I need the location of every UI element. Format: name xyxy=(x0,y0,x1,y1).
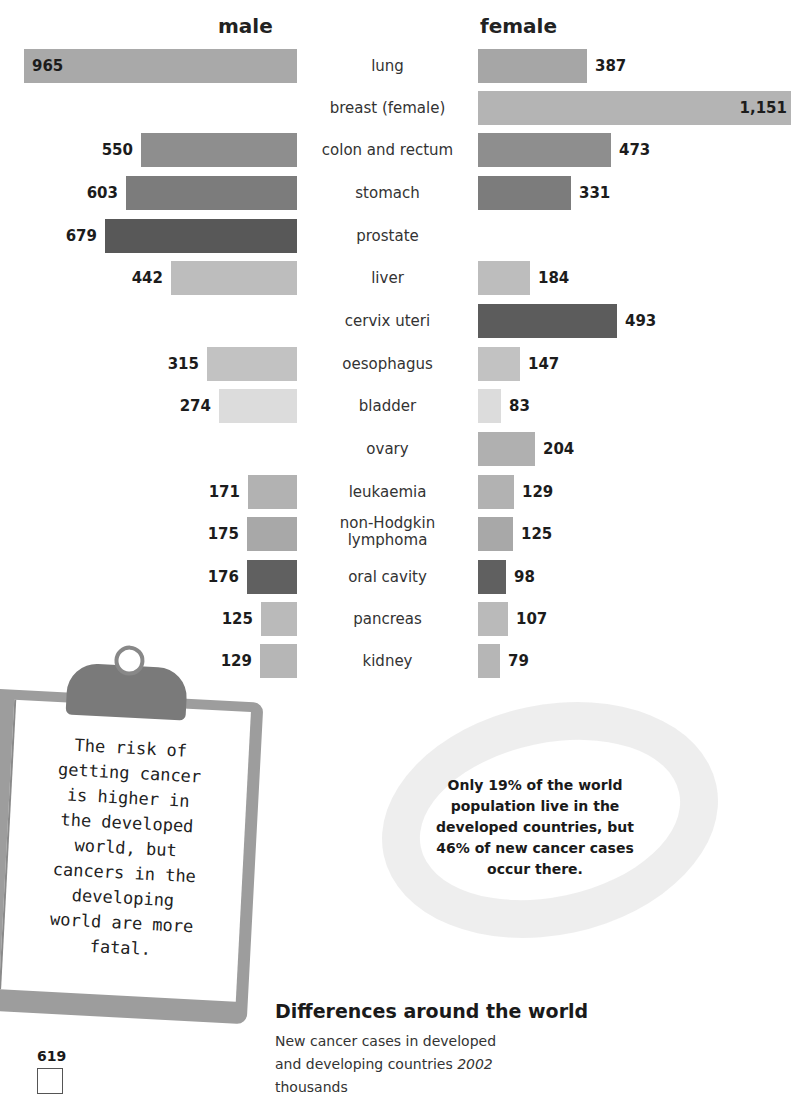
female-value: 129 xyxy=(522,475,553,509)
category-label: cervix uteri xyxy=(305,304,470,338)
male-value: 679 xyxy=(66,219,97,253)
chart-row: 175non-Hodgkinlymphoma125 xyxy=(0,517,791,551)
female-bar xyxy=(478,432,535,466)
male-bar xyxy=(126,176,297,210)
category-label-text: leukaemia xyxy=(305,475,470,509)
category-label: colon and rectum xyxy=(305,133,470,167)
male-value: 175 xyxy=(208,517,239,551)
male-value: 550 xyxy=(102,133,133,167)
female-value: 387 xyxy=(595,49,626,83)
category-label-text: ovary xyxy=(305,432,470,466)
subtitle-year: 2002 xyxy=(457,1056,493,1072)
female-header: female xyxy=(480,14,557,38)
chart-row: 176oral cavity98 xyxy=(0,560,791,594)
category-label-text: liver xyxy=(305,261,470,295)
chart-row: cervix uteri493 xyxy=(0,304,791,338)
female-bar xyxy=(478,560,506,594)
category-label: prostate xyxy=(305,219,470,253)
male-bar xyxy=(141,133,297,167)
category-label-text: stomach xyxy=(305,176,470,210)
male-header: male xyxy=(218,14,273,38)
chart-row: 171leukaemia129 xyxy=(0,475,791,509)
chart-row: 315oesophagus147 xyxy=(0,347,791,381)
subtitle-units: thousands xyxy=(275,1076,535,1098)
note-line: 46% of new cancer cases xyxy=(430,838,640,859)
mini-chart-value: 619 xyxy=(37,1048,66,1064)
category-label-text: lymphoma xyxy=(305,532,470,549)
section-subtitle: New cancer cases in developed and develo… xyxy=(275,1030,535,1098)
female-value: 83 xyxy=(509,389,530,423)
chart-row: 274bladder83 xyxy=(0,389,791,423)
female-bar xyxy=(478,475,514,509)
category-label-text: cervix uteri xyxy=(305,304,470,338)
category-label: oesophagus xyxy=(305,347,470,381)
chart-row: breast (female)1,151 xyxy=(0,91,791,125)
category-label-text: oesophagus xyxy=(305,347,470,381)
category-label: lung xyxy=(305,49,470,83)
category-label: leukaemia xyxy=(305,475,470,509)
chart-row: ovary204 xyxy=(0,432,791,466)
male-bar xyxy=(247,560,297,594)
male-value: 603 xyxy=(87,176,118,210)
note-line: population live in the xyxy=(430,796,640,817)
chart-row: 550colon and rectum473 xyxy=(0,133,791,167)
female-bar xyxy=(478,261,530,295)
female-bar xyxy=(478,347,520,381)
female-value: 204 xyxy=(543,432,574,466)
chart-row: 965lung387 xyxy=(0,49,791,83)
male-bar xyxy=(261,602,297,636)
female-value: 79 xyxy=(508,644,529,678)
male-bar xyxy=(248,475,297,509)
callout-note: Only 19% of the world population live in… xyxy=(430,775,640,880)
category-label: bladder xyxy=(305,389,470,423)
mini-chart-bar xyxy=(37,1068,63,1094)
male-value: 274 xyxy=(180,389,211,423)
subtitle-text: and developing countries xyxy=(275,1056,453,1072)
male-value: 129 xyxy=(221,644,252,678)
male-value: 315 xyxy=(168,347,199,381)
subtitle-line: and developing countries 2002 xyxy=(275,1053,535,1076)
female-bar xyxy=(478,644,500,678)
female-bar xyxy=(478,517,513,551)
male-bar xyxy=(219,389,297,423)
female-bar xyxy=(478,176,571,210)
category-label: kidney xyxy=(305,644,470,678)
female-bar xyxy=(478,389,501,423)
female-value: 184 xyxy=(538,261,569,295)
category-label-text: breast (female) xyxy=(305,91,470,125)
male-value: 442 xyxy=(132,261,163,295)
note-line: developed countries, but xyxy=(430,817,640,838)
category-label: pancreas xyxy=(305,602,470,636)
male-bar xyxy=(247,517,297,551)
female-value: 1,151 xyxy=(740,91,787,125)
category-label: non-Hodgkinlymphoma xyxy=(305,515,470,549)
category-label: breast (female) xyxy=(305,91,470,125)
note-line: Only 19% of the world xyxy=(430,775,640,796)
category-label-text: bladder xyxy=(305,389,470,423)
category-label-text: pancreas xyxy=(305,602,470,636)
male-bar xyxy=(105,219,297,253)
clipboard-text: The risk of getting cancer is higher in … xyxy=(5,730,246,967)
chart-row: 125pancreas107 xyxy=(0,602,791,636)
female-bar xyxy=(478,49,587,83)
category-label: liver xyxy=(305,261,470,295)
clipboard: The risk of getting cancer is higher in … xyxy=(0,688,263,1032)
male-value: 171 xyxy=(209,475,240,509)
female-value: 147 xyxy=(528,347,559,381)
category-label-text: lung xyxy=(305,49,470,83)
female-value: 331 xyxy=(579,176,610,210)
category-label-text: colon and rectum xyxy=(305,133,470,167)
category-label: stomach xyxy=(305,176,470,210)
male-bar xyxy=(207,347,297,381)
female-value: 125 xyxy=(521,517,552,551)
chart-row: 679prostate xyxy=(0,219,791,253)
female-value: 493 xyxy=(625,304,656,338)
note-line: occur there. xyxy=(430,859,640,880)
chart-row: 603stomach331 xyxy=(0,176,791,210)
category-label: ovary xyxy=(305,432,470,466)
female-value: 98 xyxy=(514,560,535,594)
subtitle-line: New cancer cases in developed xyxy=(275,1030,535,1053)
female-value: 473 xyxy=(619,133,650,167)
male-bar xyxy=(24,49,297,83)
category-label: oral cavity xyxy=(305,560,470,594)
